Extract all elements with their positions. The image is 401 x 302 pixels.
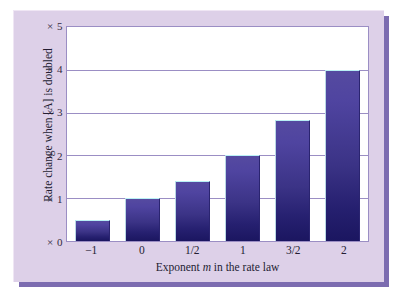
x-tick-label: 0 bbox=[117, 244, 168, 262]
y-tick-label: × 4 bbox=[47, 63, 63, 75]
y-tick-label: × 3 bbox=[47, 106, 63, 118]
bar-slot bbox=[167, 27, 217, 241]
bar-slot bbox=[318, 27, 368, 241]
chart-panel: Rate change when [A] is doubled × 0 × 1 … bbox=[13, 10, 384, 282]
bar bbox=[325, 70, 360, 241]
bar bbox=[125, 198, 160, 241]
x-axis-title-variable: m bbox=[203, 261, 211, 273]
bar bbox=[275, 120, 310, 241]
y-tick-label: × 2 bbox=[47, 150, 63, 162]
bar-slot bbox=[217, 27, 267, 241]
y-tick-label: × 5 bbox=[47, 20, 63, 32]
bar-slot bbox=[117, 27, 167, 241]
x-tick-label: 1 bbox=[218, 244, 269, 262]
bar-series bbox=[67, 27, 368, 241]
bar-slot bbox=[67, 27, 117, 241]
bar bbox=[225, 155, 260, 241]
y-axis-tick-labels: × 0 × 1 × 2 × 3 × 4 × 5 bbox=[27, 26, 66, 242]
x-tick-label: 1/2 bbox=[167, 244, 218, 262]
x-axis-title: Exponent m in the rate law bbox=[66, 261, 369, 273]
bar bbox=[75, 220, 110, 241]
figure-root: Rate change when [A] is doubled × 0 × 1 … bbox=[0, 0, 401, 302]
plot-area bbox=[66, 26, 369, 242]
x-axis-tick-labels: −101/213/22 bbox=[66, 244, 369, 262]
y-tick-label: × 0 bbox=[47, 236, 63, 248]
bar-slot bbox=[268, 27, 318, 241]
bar bbox=[175, 181, 210, 241]
x-tick-label: −1 bbox=[66, 244, 117, 262]
x-tick-label: 2 bbox=[319, 244, 370, 262]
x-tick-label: 3/2 bbox=[268, 244, 319, 262]
x-axis-title-prefix: Exponent bbox=[156, 261, 203, 273]
y-tick-label: × 1 bbox=[47, 193, 63, 205]
x-axis-title-suffix: in the rate law bbox=[211, 261, 279, 273]
